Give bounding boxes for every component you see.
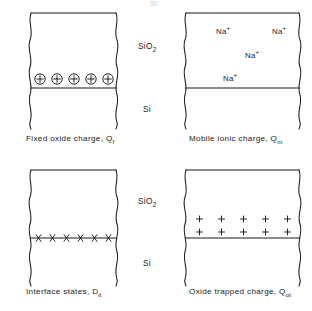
layer-label-silicon-top: Si [143,105,151,113]
caption-mobile-ionic-charge: Mobile ionic charge, Qm [189,135,283,145]
ion-charge-sign: + [234,71,238,78]
plus-icon [285,229,291,235]
ion-charge-sign: + [256,48,260,55]
caption-fixed-oxide-charge: Fixed oxide charge, Qf [26,135,114,145]
layer-label-oxide-text: SiO [138,196,153,206]
sodium-ion-label: Na+ [223,72,237,83]
plus-icon [263,216,269,222]
ion-charge-sign: + [227,24,231,31]
sodium-ion-label: Na+ [245,49,259,60]
sodium-ion-label: Na+ [216,25,230,36]
panel-right-torn-edge [116,13,118,129]
circled-plus-icon [35,74,45,84]
caption-interface-states: Interface states, Dit [26,288,102,298]
circled-plus-icon [103,74,113,84]
plus-icon [219,216,225,222]
fixed-charge-row [35,74,113,84]
caption-text: Fixed oxide charge, Q [26,134,113,143]
layer-label-oxide-text: SiO [138,41,153,51]
plus-icon [241,216,247,222]
plus-icon [241,229,247,235]
plus-icon [197,216,203,222]
panel-interface-states [29,170,118,286]
panel-left-torn-edge [184,13,186,129]
layer-label-oxide-top: SiO2 [138,42,157,53]
sodium-ion-label: Na+ [272,25,286,36]
circled-plus-icon [69,74,79,84]
panel-fixed-oxide-charge [29,13,118,129]
plus-icon [285,216,291,222]
layer-label-oxide-subscript: 2 [153,201,157,208]
caption-subscript: ot [286,291,291,298]
panel-right-torn-edge [299,170,301,286]
plus-icon [197,229,203,235]
caption-subscript: it [98,291,101,298]
panel-right-torn-edge [116,170,118,286]
ion-text: Na [223,74,234,83]
caption-text: Mobile ionic charge, Q [189,134,277,143]
panel-right-torn-edge [299,13,301,129]
mos-oxide-charges-figure: Si SiO2 Si SiO2 Si Na+ Na+ Na+ Na+ Fixed… [0,0,312,311]
caption-subscript: f [113,138,115,145]
caption-text: Interface states, D [26,287,98,296]
ion-text: Na [216,27,227,36]
clipped-top-label: Si [150,0,157,8]
ion-charge-sign: + [283,24,287,31]
trapped-charge-grid [197,216,291,235]
circled-plus-icon [52,74,62,84]
layer-label-oxide-subscript: 2 [153,46,157,53]
caption-text: Oxide trapped charge, Q [189,287,286,296]
ion-text: Na [272,27,283,36]
layer-label-silicon-bottom: Si [143,259,151,267]
panel-left-torn-edge [184,170,186,286]
caption-oxide-trapped-charge: Oxide trapped charge, Qot [189,288,291,298]
plus-icon [219,229,225,235]
caption-subscript: m [277,138,282,145]
circled-plus-icon [86,74,96,84]
panel-left-torn-edge [29,170,31,286]
ion-text: Na [245,51,256,60]
panel-oxide-trapped-charge [184,170,301,286]
layer-label-oxide-bottom: SiO2 [138,197,157,208]
panel-left-torn-edge [29,13,31,129]
plus-icon [263,229,269,235]
